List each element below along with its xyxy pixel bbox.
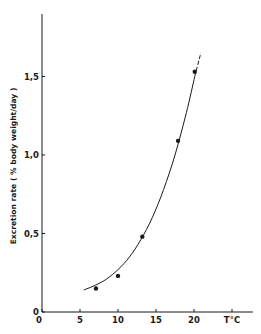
- y-tick-label: 1,5: [24, 72, 39, 82]
- data-point: [94, 286, 98, 290]
- data-point: [116, 274, 120, 278]
- x-ticks: 05101520T°C: [36, 309, 240, 325]
- x-tick-label: 20: [188, 315, 200, 325]
- x-tick-label: 10: [112, 315, 124, 325]
- x-tick-label: T°C: [224, 315, 240, 325]
- y-tick-label: 0,5: [24, 229, 39, 239]
- x-tick-label: 15: [150, 315, 162, 325]
- axes: [42, 14, 253, 312]
- fitted-curve: [84, 77, 195, 291]
- y-tick-label: 0: [33, 307, 39, 317]
- y-axis-title: Excretion rate ( % body weight/day ): [9, 88, 18, 245]
- excretion-rate-chart: 05101520T°C 00,51,01,5 Excretion rate ( …: [0, 0, 261, 334]
- data-series: [84, 53, 201, 291]
- y-tick-label: 1,0: [24, 150, 39, 160]
- data-point: [176, 139, 180, 143]
- data-point: [140, 234, 144, 238]
- data-point: [193, 70, 197, 74]
- x-tick-label: 5: [77, 315, 83, 325]
